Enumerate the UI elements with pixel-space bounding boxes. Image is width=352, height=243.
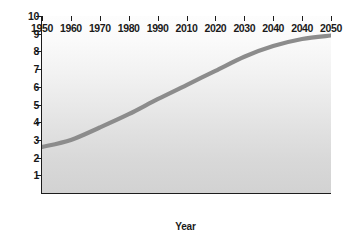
y-tick-label: 2 [33, 152, 39, 163]
x-tick-mark [158, 16, 159, 21]
y-tick-label: 10 [28, 11, 39, 22]
x-tick-mark [71, 16, 72, 21]
x-tick-mark [100, 16, 101, 21]
x-tick-mark [302, 16, 303, 21]
x-tick-mark [215, 16, 216, 21]
plot-area: 12345678910 1950196019701980199020102020… [41, 16, 331, 194]
population-line-chart [42, 16, 331, 193]
x-tick-mark [331, 16, 332, 21]
x-tick-label: 1960 [60, 23, 82, 34]
population-curve [42, 35, 331, 147]
y-tick-label: 8 [33, 46, 39, 57]
x-tick-label: 2010 [176, 23, 198, 34]
y-tick-label: 1 [33, 170, 39, 181]
y-tick-label: 5 [33, 99, 39, 110]
x-tick-label: 2040 [262, 23, 284, 34]
x-tick-label: 1970 [89, 23, 111, 34]
x-tick-label: 2030 [233, 23, 255, 34]
x-tick-label: 1980 [118, 23, 140, 34]
x-tick-label: 1990 [147, 23, 169, 34]
y-tick-label: 6 [33, 82, 39, 93]
x-tick-label: 2020 [205, 23, 227, 34]
chart-figure: Population (billions) 12345678910 195019… [0, 0, 352, 243]
x-tick-label: 2040 [291, 23, 313, 34]
x-axis-title: Year [41, 221, 330, 232]
x-tick-mark [42, 16, 43, 21]
y-tick-label: 3 [33, 135, 39, 146]
y-tick-label: 4 [33, 117, 39, 128]
x-tick-mark [129, 16, 130, 21]
x-tick-mark [244, 16, 245, 21]
y-tick-label: 7 [33, 64, 39, 75]
x-tick-label: 1950 [31, 23, 53, 34]
x-tick-mark [273, 16, 274, 21]
x-tick-mark [187, 16, 188, 21]
x-tick-label: 2050 [320, 23, 342, 34]
